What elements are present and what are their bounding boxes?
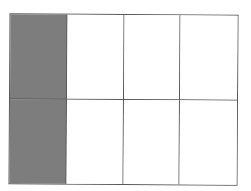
fraction-grid (8, 13, 238, 185)
unshaded-cell (67, 15, 124, 100)
shaded-cell (9, 99, 66, 184)
unshaded-cell (124, 15, 181, 100)
unshaded-cell (123, 100, 180, 185)
unshaded-cell (180, 100, 237, 185)
shaded-cell (10, 14, 67, 99)
diagram-canvas (0, 0, 251, 191)
unshaded-cell (180, 15, 237, 100)
unshaded-cell (66, 99, 123, 184)
